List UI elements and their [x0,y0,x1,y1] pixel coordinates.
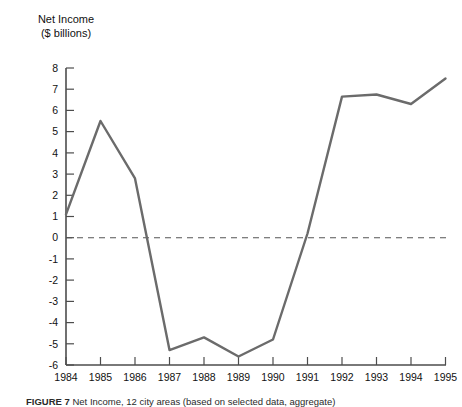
ytick-label: 1 [32,211,58,222]
ytick-label: -2 [32,275,58,286]
figure-caption-label: FIGURE 7 [26,396,70,407]
figure-caption: FIGURE 7 Net Income, 12 city areas (base… [26,396,426,407]
x-tick-marks [66,357,446,365]
ytick-label: -6 [32,360,58,371]
ytick-label: 0 [32,232,58,243]
ytick-label: 2 [32,190,58,201]
ytick-label: -3 [32,296,58,307]
ytick-label: 7 [32,84,58,95]
ytick-label: 6 [32,105,58,116]
figure-caption-text: Net Income, 12 city areas (based on sele… [72,396,335,407]
y-tick-marks [66,68,74,365]
ytick-label: -5 [32,339,58,350]
data-line-net-income [66,79,446,357]
ytick-label: -1 [32,254,58,265]
xtick-label: 1995 [426,372,462,383]
ytick-label: 8 [32,63,58,74]
ytick-label: 5 [32,126,58,137]
ytick-label: -4 [32,317,58,328]
ytick-label: 4 [32,148,58,159]
ytick-label: 3 [32,169,58,180]
